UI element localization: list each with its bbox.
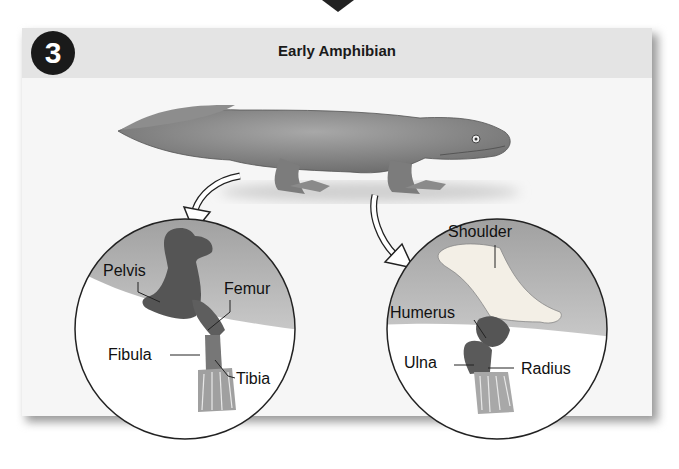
label-radius: Radius: [521, 360, 571, 378]
ground-shadow: [220, 182, 520, 202]
label-pelvis: Pelvis: [103, 262, 146, 280]
label-femur: Femur: [224, 280, 270, 298]
label-ulna: Ulna: [404, 354, 437, 372]
label-shoulder: Shoulder: [448, 223, 512, 241]
label-fibula: Fibula: [108, 346, 152, 364]
amphibian-illustration: [0, 0, 679, 469]
label-tibia: Tibia: [236, 370, 270, 388]
hind-limb-inset: [60, 200, 300, 439]
amphibian-body-icon: [118, 105, 510, 194]
label-humerus: Humerus: [390, 304, 455, 322]
